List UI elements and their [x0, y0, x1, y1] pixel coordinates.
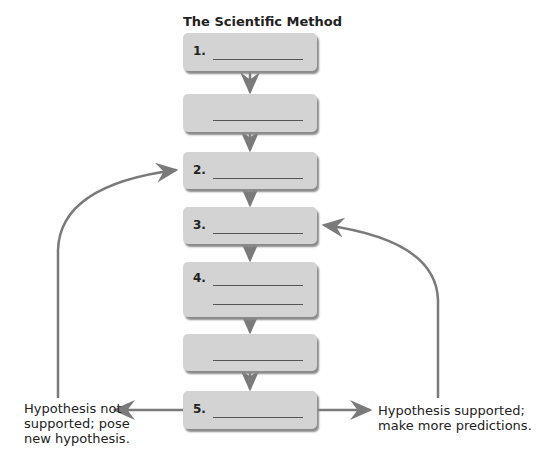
- blank-line: [213, 178, 303, 179]
- label-line: supported; pose: [24, 416, 130, 431]
- hypothesis-not-supported-label: Hypothesis not supported; pose new hypot…: [24, 401, 130, 446]
- blank-line: [213, 285, 303, 286]
- step-box-5: 5.: [183, 391, 317, 429]
- blank-line: [213, 304, 303, 305]
- blank-line: [213, 360, 303, 361]
- step-box-3: 3.: [183, 207, 317, 244]
- step-number: 3.: [193, 218, 206, 232]
- step-box-2: 2.: [183, 152, 317, 189]
- blank-line: [213, 120, 303, 121]
- step-box-unnumbered-1: [183, 94, 317, 132]
- label-line: Hypothesis not: [24, 401, 130, 416]
- blank-line: [213, 417, 303, 418]
- diagram: The Scientific Method 1. 2. 3. 4. 5. Hyp…: [0, 0, 536, 465]
- step-number: 4.: [193, 271, 206, 285]
- label-line: make more predictions.: [378, 418, 532, 433]
- hypothesis-supported-label: Hypothesis supported; make more predicti…: [378, 403, 532, 433]
- step-number: 5.: [193, 402, 206, 416]
- step-box-1: 1.: [183, 33, 317, 71]
- diagram-title: The Scientific Method: [183, 14, 342, 29]
- label-line: Hypothesis supported;: [378, 403, 532, 418]
- step-box-unnumbered-2: [183, 334, 317, 371]
- blank-line: [213, 233, 303, 234]
- label-line: new hypothesis.: [24, 431, 130, 446]
- step-number: 2.: [193, 163, 206, 177]
- step-number: 1.: [193, 44, 206, 58]
- blank-line: [213, 59, 303, 60]
- step-box-4: 4.: [183, 262, 317, 317]
